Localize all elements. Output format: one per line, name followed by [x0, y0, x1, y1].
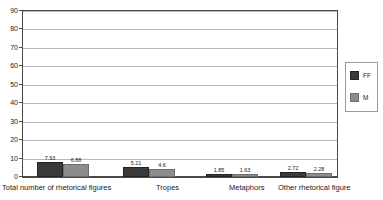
bar-value-label: 1.63: [228, 167, 262, 173]
bar-ff[interactable]: [123, 167, 149, 177]
x-axis-category-labels: Total number of rhetorical figuresTropes…: [0, 183, 383, 197]
y-axis-tick-label: 20: [0, 136, 18, 143]
y-axis-tick-mark: [19, 65, 22, 66]
y-axis-tick-mark: [19, 176, 22, 177]
bar-value-label: 2.28: [302, 166, 336, 172]
bar-group: 5.214.6: [123, 11, 175, 177]
bar-value-label: 6.88: [59, 157, 93, 163]
bar-value-label: 4.6: [145, 162, 179, 168]
bar-ff[interactable]: [37, 162, 63, 177]
bar-m[interactable]: [149, 169, 175, 177]
bar-ff[interactable]: [280, 172, 306, 177]
bar-group: 7.936.88: [37, 11, 89, 177]
legend-label-ff: FF: [363, 71, 371, 80]
y-axis-tick-label: 70: [0, 44, 18, 51]
plot-area: 7.936.885.214.61.851.632.722.28: [22, 10, 338, 178]
bar-m[interactable]: [63, 164, 89, 177]
legend-item-m[interactable]: M: [350, 93, 368, 102]
legend-label-m: M: [363, 93, 368, 102]
y-axis-tick-label: 40: [0, 99, 18, 106]
x-axis-category-label: Other rhetorical figure: [278, 183, 351, 193]
y-axis-tick-mark: [19, 158, 22, 159]
y-axis-tick-label: 30: [0, 118, 18, 125]
y-axis-tick-mark: [19, 121, 22, 122]
bar-m[interactable]: [306, 173, 332, 177]
bar-group: 2.722.28: [280, 11, 332, 177]
y-axis-tick-mark: [19, 28, 22, 29]
y-axis-tick-label: 10: [0, 155, 18, 162]
x-axis-category-label: Tropes: [156, 183, 179, 193]
y-axis-tick-mark: [19, 47, 22, 48]
y-axis-tick-mark: [19, 10, 22, 11]
y-axis-tick-label: 50: [0, 81, 18, 88]
legend-item-ff[interactable]: FF: [350, 71, 371, 80]
y-axis-tick-label: 0: [0, 173, 18, 180]
y-axis-tick-mark: [19, 139, 22, 140]
x-axis-category-label: Metaphors: [229, 183, 264, 193]
legend-swatch-ff: [350, 71, 359, 80]
legend: FF M: [345, 62, 378, 112]
legend-swatch-m: [350, 93, 359, 102]
bar-ff[interactable]: [206, 174, 232, 177]
bar-chart: 7.936.885.214.61.851.632.722.28 90807060…: [0, 0, 383, 200]
y-axis-tick-label: 80: [0, 25, 18, 32]
bar-groups: 7.936.885.214.61.851.632.722.28: [23, 11, 337, 177]
y-axis-tick-mark: [19, 102, 22, 103]
bar-group: 1.851.63: [206, 11, 258, 177]
y-axis-tick-mark: [19, 84, 22, 85]
bar-m[interactable]: [232, 174, 258, 177]
x-axis-category-label: Total number of rhetorical figures: [2, 183, 111, 193]
y-axis-tick-label: 60: [0, 62, 18, 69]
y-axis-tick-label: 90: [0, 7, 18, 14]
